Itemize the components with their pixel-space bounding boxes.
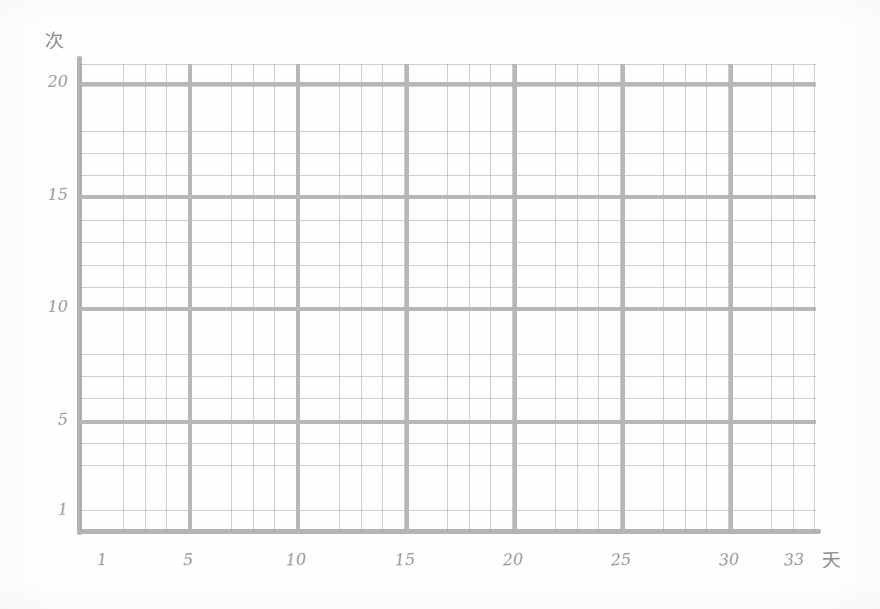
x-axis-tick-label: 10 xyxy=(276,551,317,569)
x-axis-tick-label: 20 xyxy=(493,551,534,569)
plot-area xyxy=(80,64,816,532)
x-axis-tick-label: 25 xyxy=(601,551,642,569)
major-gridline-vertical xyxy=(729,64,733,532)
major-gridline-vertical xyxy=(513,64,517,532)
major-gridline-horizontal xyxy=(80,420,816,424)
major-gridline-vertical xyxy=(621,64,625,532)
grid-clip xyxy=(80,64,816,532)
major-gridline-vertical xyxy=(296,64,300,532)
major-gridline-vertical xyxy=(405,64,409,532)
graph-paper-chart: 次 天 20151051 15101520253033 xyxy=(0,0,880,609)
y-axis-tick-label: 15 xyxy=(34,186,69,203)
x-axis-tick-label: 5 xyxy=(168,551,209,569)
y-axis-tick-label: 1 xyxy=(34,501,69,518)
major-gridlines xyxy=(80,64,816,532)
x-axis-unit-label: 天 xyxy=(822,551,842,571)
x-axis-tick-label: 1 xyxy=(81,551,122,569)
major-gridline-vertical xyxy=(188,64,192,532)
x-axis-tick-label: 15 xyxy=(384,551,425,569)
major-gridline-horizontal xyxy=(80,195,816,199)
x-axis-tick-label: 33 xyxy=(774,551,815,569)
y-axis-tick-label: 10 xyxy=(34,298,69,315)
y-axis-unit-label: 次 xyxy=(45,32,65,52)
y-axis-tick-label: 20 xyxy=(34,73,69,90)
major-gridline-horizontal xyxy=(80,82,816,86)
x-axis-tick-label: 30 xyxy=(709,551,750,569)
major-gridline-horizontal xyxy=(80,307,816,311)
y-axis-tick-label: 5 xyxy=(34,411,69,428)
